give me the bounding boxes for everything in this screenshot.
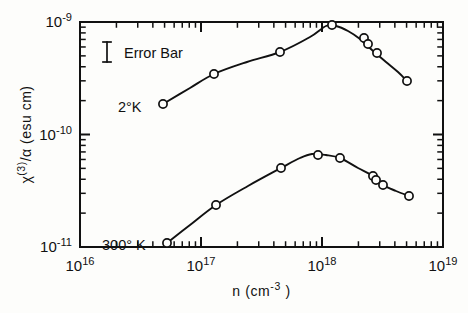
error-bar-caption: Error Bar — [124, 45, 183, 61]
series-label-2k-text: 2°K — [118, 99, 142, 115]
datapoint-2k-3 — [328, 21, 336, 29]
datapoint-300k-0 — [163, 239, 171, 247]
x-axis-title-text: n (cm-3 ) — [232, 280, 290, 299]
series-label-300k-text: 300° K — [102, 237, 146, 253]
datapoint-2k-5 — [364, 40, 372, 48]
datapoint-2k-7 — [403, 77, 411, 85]
datapoint-300k-2 — [277, 164, 285, 172]
datapoint-300k-8 — [405, 192, 413, 200]
datapoint-300k-7 — [379, 181, 387, 189]
datapoint-300k-3 — [314, 151, 322, 159]
datapoint-300k-4 — [336, 154, 344, 162]
datapoint-2k-0 — [159, 100, 167, 108]
datapoint-2k-6 — [373, 49, 381, 57]
loglog-chart: 101610171018101910-910-1010-11 n (cm-3 )… — [0, 0, 468, 313]
datapoint-2k-2 — [276, 48, 284, 56]
figure-panel: 101610171018101910-910-1010-11 n (cm-3 )… — [0, 0, 468, 313]
datapoint-300k-1 — [212, 201, 220, 209]
datapoint-2k-1 — [210, 70, 218, 78]
